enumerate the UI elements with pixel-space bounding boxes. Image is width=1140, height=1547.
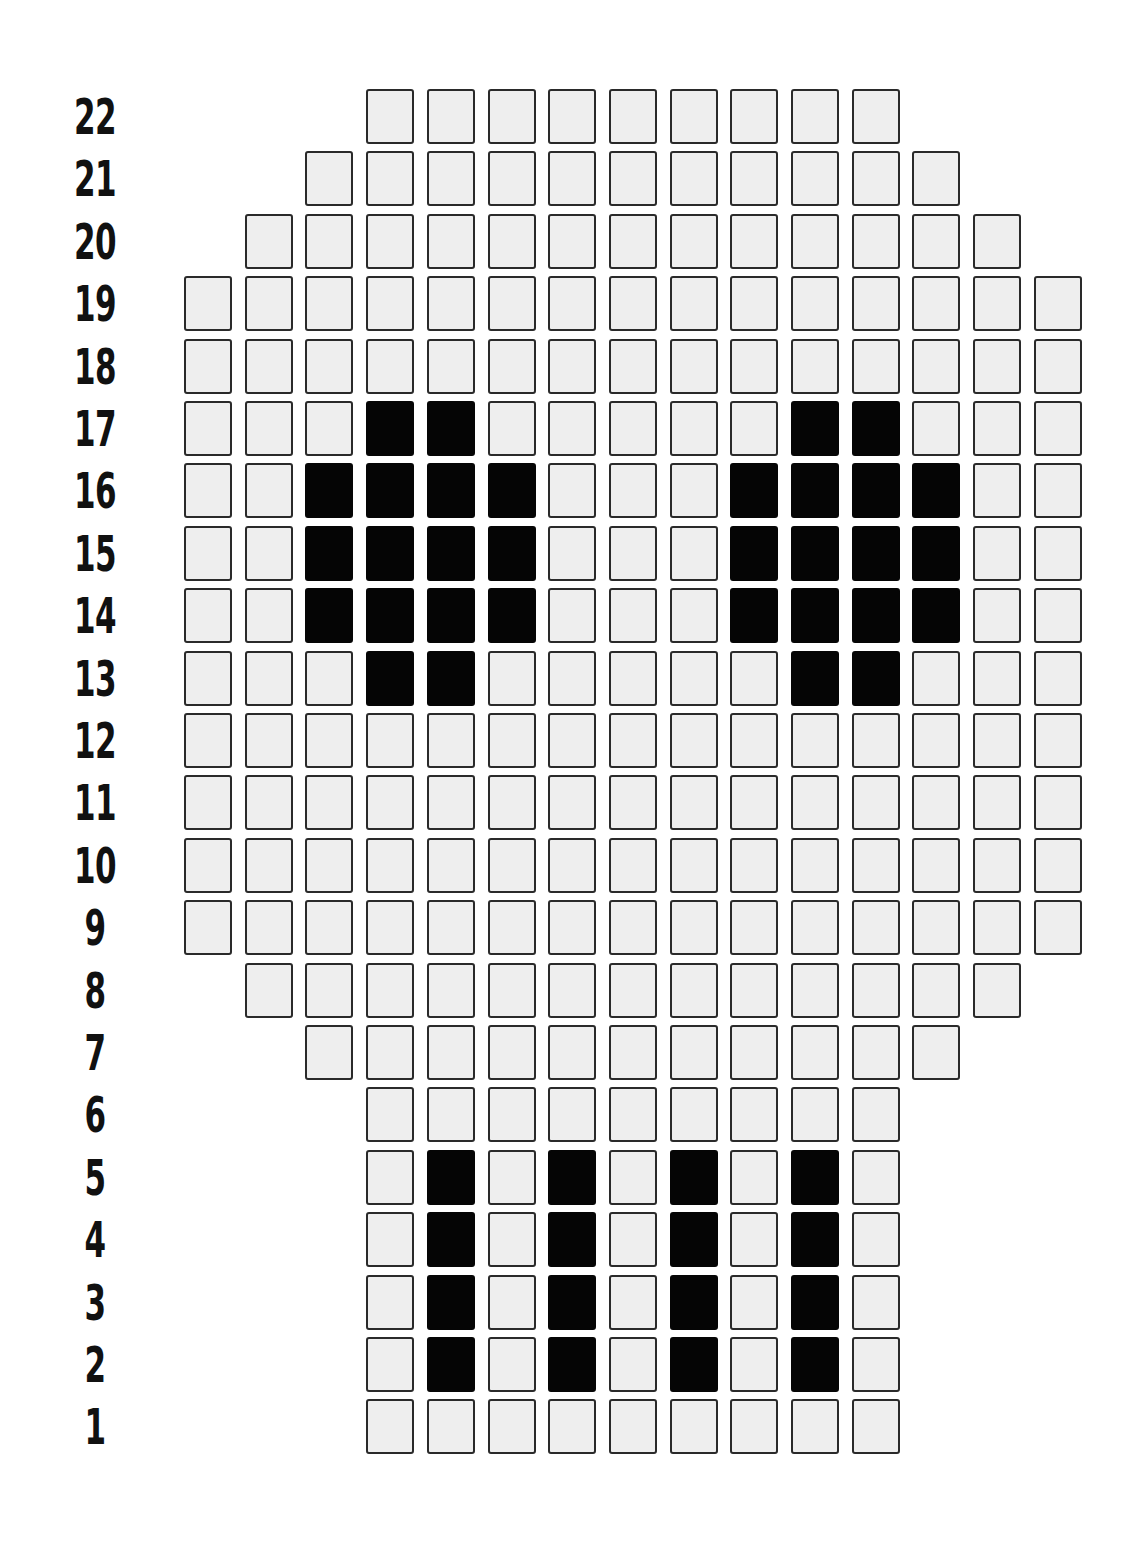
grid-cell-empty[interactable] — [1034, 339, 1082, 394]
grid-cell-empty[interactable] — [852, 1275, 900, 1330]
grid-cell-empty[interactable] — [609, 1025, 657, 1080]
grid-cell-empty[interactable] — [730, 900, 778, 955]
grid-cell-empty[interactable] — [852, 1025, 900, 1080]
grid-cell-empty[interactable] — [730, 1025, 778, 1080]
grid-cell-empty[interactable] — [791, 89, 839, 144]
grid-cell-empty[interactable] — [912, 651, 960, 706]
grid-cell-filled[interactable] — [427, 463, 475, 518]
grid-cell-empty[interactable] — [427, 339, 475, 394]
grid-cell-empty[interactable] — [912, 775, 960, 830]
grid-cell-empty[interactable] — [1034, 526, 1082, 581]
grid-cell-filled[interactable] — [912, 588, 960, 643]
grid-cell-empty[interactable] — [184, 339, 232, 394]
grid-cell-empty[interactable] — [730, 963, 778, 1018]
grid-cell-empty[interactable] — [548, 89, 596, 144]
grid-cell-empty[interactable] — [791, 151, 839, 206]
grid-cell-empty[interactable] — [609, 526, 657, 581]
grid-cell-empty[interactable] — [427, 1025, 475, 1080]
grid-cell-empty[interactable] — [973, 401, 1021, 456]
grid-cell-empty[interactable] — [245, 588, 293, 643]
grid-cell-filled[interactable] — [305, 463, 353, 518]
grid-cell-empty[interactable] — [912, 713, 960, 768]
grid-cell-empty[interactable] — [609, 1150, 657, 1205]
grid-cell-empty[interactable] — [1034, 775, 1082, 830]
grid-cell-empty[interactable] — [305, 713, 353, 768]
grid-cell-empty[interactable] — [427, 1399, 475, 1454]
grid-cell-filled[interactable] — [670, 1275, 718, 1330]
grid-cell-empty[interactable] — [366, 1275, 414, 1330]
grid-cell-filled[interactable] — [305, 526, 353, 581]
grid-cell-empty[interactable] — [427, 89, 475, 144]
grid-cell-empty[interactable] — [973, 713, 1021, 768]
grid-cell-filled[interactable] — [670, 1337, 718, 1392]
grid-cell-empty[interactable] — [730, 89, 778, 144]
grid-cell-empty[interactable] — [670, 838, 718, 893]
grid-cell-empty[interactable] — [548, 1399, 596, 1454]
grid-cell-empty[interactable] — [305, 401, 353, 456]
grid-cell-empty[interactable] — [184, 651, 232, 706]
grid-cell-empty[interactable] — [366, 1025, 414, 1080]
grid-cell-empty[interactable] — [548, 401, 596, 456]
grid-cell-empty[interactable] — [184, 526, 232, 581]
grid-cell-empty[interactable] — [609, 900, 657, 955]
grid-cell-empty[interactable] — [973, 838, 1021, 893]
grid-cell-empty[interactable] — [245, 900, 293, 955]
grid-cell-empty[interactable] — [1034, 713, 1082, 768]
grid-cell-empty[interactable] — [609, 151, 657, 206]
grid-cell-filled[interactable] — [852, 401, 900, 456]
grid-cell-empty[interactable] — [366, 1337, 414, 1392]
grid-cell-empty[interactable] — [852, 713, 900, 768]
grid-cell-filled[interactable] — [730, 588, 778, 643]
grid-cell-filled[interactable] — [791, 526, 839, 581]
grid-cell-empty[interactable] — [670, 339, 718, 394]
grid-cell-empty[interactable] — [1034, 588, 1082, 643]
grid-cell-empty[interactable] — [609, 838, 657, 893]
grid-cell-empty[interactable] — [730, 713, 778, 768]
grid-cell-empty[interactable] — [852, 1337, 900, 1392]
grid-cell-filled[interactable] — [427, 1150, 475, 1205]
grid-cell-empty[interactable] — [305, 900, 353, 955]
grid-cell-empty[interactable] — [305, 339, 353, 394]
grid-cell-filled[interactable] — [427, 526, 475, 581]
grid-cell-empty[interactable] — [488, 775, 536, 830]
grid-cell-empty[interactable] — [488, 838, 536, 893]
grid-cell-empty[interactable] — [852, 151, 900, 206]
grid-cell-empty[interactable] — [730, 838, 778, 893]
grid-cell-empty[interactable] — [852, 1399, 900, 1454]
grid-cell-empty[interactable] — [730, 1150, 778, 1205]
grid-cell-empty[interactable] — [366, 838, 414, 893]
grid-cell-empty[interactable] — [305, 1025, 353, 1080]
grid-cell-filled[interactable] — [427, 1212, 475, 1267]
grid-cell-empty[interactable] — [852, 276, 900, 331]
grid-cell-filled[interactable] — [488, 463, 536, 518]
grid-cell-empty[interactable] — [852, 1087, 900, 1142]
grid-cell-empty[interactable] — [548, 713, 596, 768]
grid-cell-empty[interactable] — [730, 401, 778, 456]
grid-cell-empty[interactable] — [548, 463, 596, 518]
grid-cell-empty[interactable] — [1034, 463, 1082, 518]
grid-cell-empty[interactable] — [730, 276, 778, 331]
grid-cell-filled[interactable] — [548, 1150, 596, 1205]
grid-cell-empty[interactable] — [305, 151, 353, 206]
grid-cell-empty[interactable] — [973, 463, 1021, 518]
grid-cell-empty[interactable] — [791, 1399, 839, 1454]
grid-cell-empty[interactable] — [488, 401, 536, 456]
grid-cell-empty[interactable] — [670, 1399, 718, 1454]
grid-cell-empty[interactable] — [366, 276, 414, 331]
grid-cell-empty[interactable] — [488, 276, 536, 331]
grid-cell-filled[interactable] — [427, 1337, 475, 1392]
grid-cell-empty[interactable] — [670, 775, 718, 830]
grid-cell-empty[interactable] — [670, 1087, 718, 1142]
grid-cell-empty[interactable] — [791, 775, 839, 830]
grid-cell-empty[interactable] — [305, 775, 353, 830]
grid-cell-empty[interactable] — [852, 1212, 900, 1267]
grid-cell-empty[interactable] — [791, 214, 839, 269]
grid-cell-filled[interactable] — [366, 401, 414, 456]
grid-cell-empty[interactable] — [670, 526, 718, 581]
grid-cell-empty[interactable] — [366, 775, 414, 830]
grid-cell-filled[interactable] — [670, 1212, 718, 1267]
grid-cell-empty[interactable] — [488, 1150, 536, 1205]
grid-cell-empty[interactable] — [184, 276, 232, 331]
grid-cell-empty[interactable] — [609, 89, 657, 144]
grid-cell-empty[interactable] — [184, 463, 232, 518]
